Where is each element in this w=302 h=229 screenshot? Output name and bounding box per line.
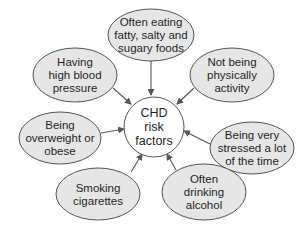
arrow-alcohol — [167, 154, 176, 170]
factor-label-line: cigarettes — [73, 195, 123, 207]
arrow-inactivity — [177, 88, 194, 104]
factor-bubble-inactivity: Not beingphysicallyactivity — [190, 48, 274, 102]
center-label-line: factors — [135, 134, 173, 148]
chd-risk-factors-diagram: Often eatingfatty, salty andsugary foods… — [0, 0, 302, 229]
center-node: CHDriskfactors — [124, 97, 184, 157]
factor-bubble-smoking: Smokingcigarettes — [56, 168, 140, 220]
factor-label-line: obese — [44, 145, 75, 157]
factor-label-line: activity — [214, 82, 249, 94]
factor-label-line: Not being — [207, 56, 256, 68]
center-label-line: CHD — [140, 106, 167, 120]
factor-label-line: stressed a lot — [218, 142, 287, 154]
factor-label-line: Having — [57, 56, 93, 68]
factor-label-line: alcohol — [186, 199, 222, 211]
factor-label-line: Often eating — [120, 16, 183, 28]
factor-label-line: Being — [45, 119, 74, 131]
factor-label-line: high blood — [48, 69, 101, 81]
arrow-blood-pressure — [113, 88, 131, 104]
factor-label-line: drinking — [184, 186, 224, 198]
center-label-line: risk — [144, 120, 164, 134]
factor-label-line: fatty, salty and — [114, 29, 187, 41]
arrow-overweight — [101, 129, 124, 133]
factor-label-line: Smoking — [76, 182, 121, 194]
arrow-smoking — [131, 154, 142, 172]
arrow-stress — [184, 131, 210, 144]
factor-label-line: of the time — [225, 155, 279, 167]
factor-bubble-blood-pressure: Havinghigh bloodpressure — [33, 48, 117, 102]
factor-label-line: Being very — [225, 129, 280, 141]
factor-label-line: Often — [190, 173, 218, 185]
factor-label-line: physically — [207, 69, 257, 81]
factor-label-line: overweight or — [25, 132, 94, 144]
factor-bubble-alcohol: Oftendrinkingalcohol — [162, 164, 246, 220]
factor-label-line: sugary foods — [118, 42, 184, 54]
factor-label-line: pressure — [53, 82, 98, 94]
factor-bubble-diet: Often eatingfatty, salty andsugary foods — [108, 9, 194, 61]
factor-bubble-stress: Being verystressed a lotof the time — [210, 122, 294, 174]
factor-bubble-overweight: Beingoverweight orobese — [19, 112, 101, 164]
